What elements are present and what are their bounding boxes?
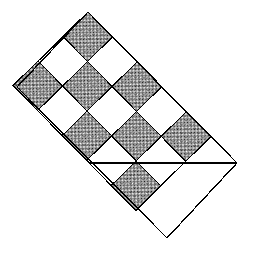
figure-root: Rotated checkerboard rhombus tiling [0,0,255,259]
checkerboard-rhombus-diagram: Rotated checkerboard rhombus tiling [0,0,255,259]
